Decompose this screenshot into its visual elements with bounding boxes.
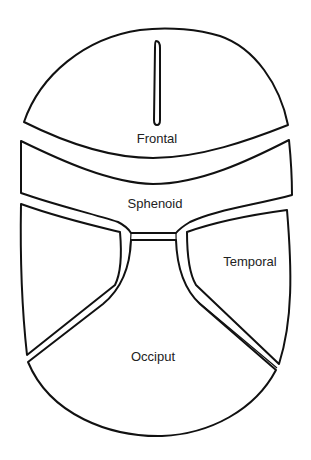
occiput-label: Occiput (131, 349, 175, 364)
frontal-suture (154, 41, 160, 125)
skull-diagram: Frontal Sphenoid Temporal Occiput (0, 0, 311, 460)
temporal-label: Temporal (223, 254, 277, 269)
frontal-label: Frontal (137, 131, 178, 146)
sphenoid-label: Sphenoid (128, 196, 183, 211)
